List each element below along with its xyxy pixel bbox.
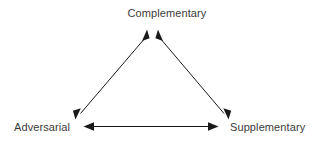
arrowhead-down-right-diagonal bbox=[223, 108, 231, 119]
arrowhead-up-right-diagonal bbox=[155, 30, 163, 42]
node-label-complementary: Complementary bbox=[0, 7, 322, 20]
edge-adversarial-supplementary bbox=[84, 122, 219, 131]
arrowhead-down-left-diagonal bbox=[73, 108, 81, 119]
edge-line-complementary-supplementary bbox=[160, 38, 225, 114]
diagram-canvas: Complementary Adversarial Supplementary bbox=[0, 0, 322, 144]
arrowhead-up-left-diagonal bbox=[142, 30, 150, 42]
edge-line-adversarial-complementary bbox=[81, 38, 146, 114]
node-label-supplementary: Supplementary bbox=[230, 121, 305, 134]
node-label-adversarial: Adversarial bbox=[14, 121, 70, 134]
arrowhead-right-horizontal bbox=[208, 122, 219, 131]
edge-adversarial-complementary bbox=[73, 30, 150, 120]
arrowhead-left-horizontal bbox=[84, 122, 95, 131]
edge-complementary-supplementary bbox=[155, 30, 231, 120]
